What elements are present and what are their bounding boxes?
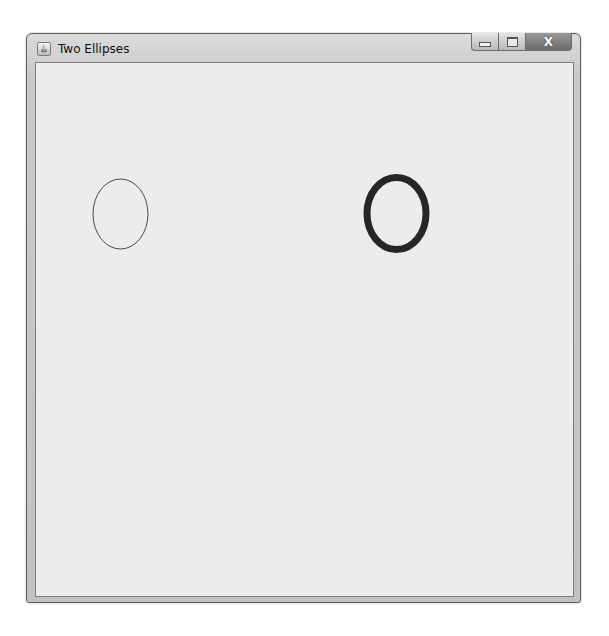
title-bar[interactable]: Two Ellipses X bbox=[27, 34, 580, 63]
window-controls: X bbox=[471, 33, 572, 51]
close-icon: X bbox=[544, 36, 553, 48]
window-title: Two Ellipses bbox=[58, 42, 129, 56]
thick-ellipse bbox=[367, 178, 426, 250]
minimize-button[interactable] bbox=[471, 33, 498, 51]
close-button[interactable]: X bbox=[525, 33, 572, 51]
app-window: Two Ellipses X bbox=[26, 33, 581, 603]
maximize-icon bbox=[507, 37, 518, 47]
thin-ellipse bbox=[93, 179, 148, 249]
java-app-icon[interactable] bbox=[37, 42, 51, 56]
drawing-panel bbox=[35, 62, 574, 597]
minimize-icon bbox=[479, 42, 491, 47]
maximize-button[interactable] bbox=[498, 33, 525, 51]
ellipse-canvas bbox=[36, 63, 573, 596]
